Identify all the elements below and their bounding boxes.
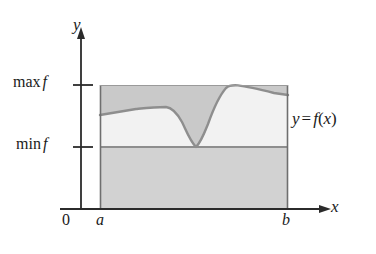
equation-close-paren: ) (331, 109, 337, 128)
equation-operator: = (300, 109, 314, 128)
figure-root: y x maxf minf 0 a b y=f(x) (0, 0, 376, 254)
curve-equation-label: y=f(x) (292, 110, 337, 127)
x-axis-label: x (331, 198, 339, 215)
min-f-prefix: min (16, 135, 41, 152)
min-f-function-letter: f (41, 135, 47, 152)
band-below-min-f (100, 147, 288, 209)
interval-right-endpoint-label: b (282, 212, 290, 228)
y-axis-label: y (73, 16, 81, 33)
max-f-tick-label: maxf (13, 74, 47, 90)
equation-argument: x (324, 109, 332, 128)
interval-left-endpoint-label: a (96, 212, 104, 228)
max-f-function-letter: f (41, 73, 47, 90)
origin-label: 0 (62, 212, 70, 228)
x-axis-arrowhead (319, 205, 331, 213)
min-f-tick-label: minf (16, 136, 47, 152)
max-f-prefix: max (13, 73, 41, 90)
equation-lhs: y (292, 109, 300, 128)
